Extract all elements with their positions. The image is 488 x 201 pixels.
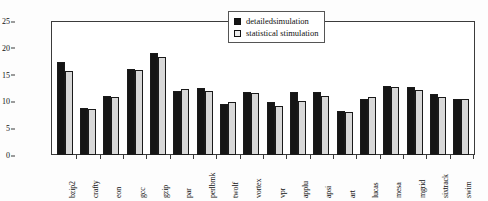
x-axis-tick-mark [450, 155, 451, 159]
x-axis-tick-label: twolf [231, 182, 240, 198]
x-axis-tick-mark [100, 155, 101, 159]
x-axis-tick-mark [170, 155, 171, 159]
x-axis-tick-mark [380, 155, 381, 159]
y-axis-tick-mark [11, 75, 15, 76]
legend-item-statistical: statistical stimulation [234, 27, 318, 39]
x-axis-tick-label: crafty [91, 181, 100, 198]
x-axis-tick-label: eon [114, 187, 123, 198]
x-axis-tick-mark [240, 155, 241, 159]
y-axis-tick-label: 0 [0, 151, 10, 160]
x-axis-tick-label: vpr [278, 188, 287, 198]
x-axis-tick-mark [426, 155, 427, 159]
y-axis-tick-mark [11, 128, 15, 129]
x-axis-tick-mark [356, 155, 357, 159]
x-axis-tick-mark [333, 155, 334, 159]
filled-square-marker-icon [234, 18, 241, 25]
y-axis-tick-label: 25 [0, 17, 10, 26]
x-axis-tick-mark [310, 155, 311, 159]
x-axis-tick-label: par [184, 188, 193, 198]
x-axis-tick-label: mgrid [418, 180, 427, 198]
x-axis-tick-label: applu [301, 181, 310, 198]
y-axis-tick-mark [11, 21, 15, 22]
x-axis-labels: bzip2craftyeongccgzipparperlbmktwolfvort… [51, 160, 475, 201]
x-axis-tick-label: gzip [161, 185, 170, 198]
x-axis-tick-label: swim [464, 181, 473, 198]
y-axis-tick-label: 5 [0, 124, 10, 133]
x-axis-tick-label: sixtrack [441, 174, 450, 198]
x-axis-tick-label: vortex [254, 179, 263, 198]
x-axis-tick-label: apsi [324, 186, 333, 198]
open-square-marker-icon [234, 30, 241, 37]
y-axis-tick-label: 20 [0, 43, 10, 52]
x-axis-tick-mark [263, 155, 264, 159]
x-axis-tick-label: bzip2 [68, 181, 77, 198]
bar-chart-figure: EPC(Watt/cycle) 0510152025 bzip2craftyeo… [0, 0, 488, 201]
x-axis-tick-label: perlbmk [208, 173, 217, 198]
x-axis-tick-marks [51, 155, 475, 159]
legend-label-detailed: detailedsimulation [246, 16, 309, 26]
x-axis-tick-label: lucas [371, 183, 380, 198]
x-axis-tick-label: gcc [138, 187, 147, 198]
x-axis-tick-mark [146, 155, 147, 159]
legend-item-detailed: detailedsimulation [234, 15, 318, 27]
y-axis-tick-mark [11, 101, 15, 102]
x-axis-tick-mark [76, 155, 77, 159]
y-axis-tick-label: 15 [0, 70, 10, 79]
x-axis-tick-mark [473, 155, 474, 159]
x-axis-tick-mark [216, 155, 217, 159]
legend-label-statistical: statistical stimulation [246, 28, 318, 38]
x-axis-tick-label: mesa [394, 182, 403, 198]
y-axis-tick-mark [11, 155, 15, 156]
x-axis-tick-mark [123, 155, 124, 159]
y-axis-tick-mark [11, 48, 15, 49]
chart-legend: detailedsimulation statistical stimulati… [228, 11, 325, 43]
x-axis-tick-mark [286, 155, 287, 159]
x-axis-tick-label: art [348, 190, 357, 198]
y-axis-tick-label: 10 [0, 97, 10, 106]
x-axis-tick-mark [403, 155, 404, 159]
x-axis-tick-mark [193, 155, 194, 159]
